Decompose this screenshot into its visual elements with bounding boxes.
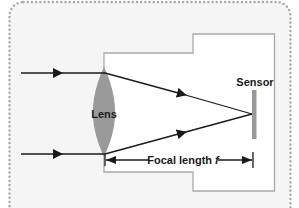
sensor bbox=[252, 90, 257, 139]
camera-optics-diagram: Lens Sensor Focal length f bbox=[0, 0, 299, 208]
focal-length-label: Focal length f bbox=[147, 154, 220, 166]
lens-label: Lens bbox=[91, 108, 117, 120]
sensor-label: Sensor bbox=[236, 76, 274, 88]
